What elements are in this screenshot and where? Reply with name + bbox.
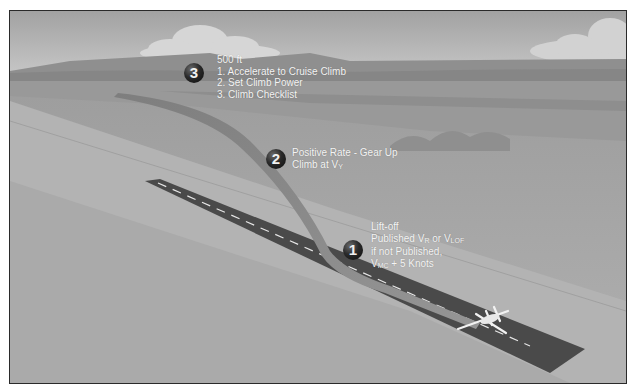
step-1-line-3: if not Published,: [371, 246, 464, 258]
step-3-badge: 3: [184, 63, 204, 83]
step-1-line-1: Lift-off: [371, 221, 464, 233]
step-1-badge: 1: [343, 240, 363, 260]
step-3-label: 500 ft 1. Accelerate to Cruise Climb 2. …: [217, 54, 346, 100]
step-1-line-2: Published VR or VLOF: [371, 233, 464, 247]
step-2-badge: 2: [266, 149, 286, 169]
step-1-line-4: VMC + 5 Knots: [371, 258, 464, 272]
step-2-label: Positive Rate - Gear Up Climb at VY: [292, 147, 398, 172]
step-3-altitude: 500 ft: [217, 54, 346, 66]
step-1-label: Lift-off Published VR or VLOF if not Pub…: [371, 221, 464, 271]
step-2-number: 2: [272, 150, 280, 167]
step-3-item-2: 2. Set Climb Power: [217, 77, 346, 89]
step-3-item-3: 3. Climb Checklist: [217, 89, 346, 101]
step-3-item-1: 1. Accelerate to Cruise Climb: [217, 66, 346, 78]
step-2-line-2: Climb at VY: [292, 159, 398, 173]
step-2-line-1: Positive Rate - Gear Up: [292, 147, 398, 159]
step-1-number: 1: [349, 241, 357, 258]
step-3-number: 3: [190, 64, 198, 81]
takeoff-diagram: 3 500 ft 1. Accelerate to Cruise Climb 2…: [9, 10, 627, 384]
